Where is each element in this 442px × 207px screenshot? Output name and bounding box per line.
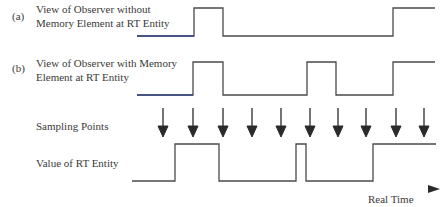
arrow-down-icon	[247, 108, 257, 137]
arrow-down-icon	[276, 108, 286, 137]
axis-arrowhead-icon	[428, 185, 440, 193]
arrow-down-icon	[391, 108, 401, 137]
arrow-down-icon	[333, 108, 343, 137]
waveform-a	[137, 8, 435, 36]
sampling-arrows	[158, 108, 429, 137]
arrow-down-icon	[188, 108, 198, 137]
arrow-down-icon	[218, 108, 228, 137]
timing-diagram	[0, 0, 442, 207]
arrow-down-icon	[361, 108, 371, 137]
arrow-down-icon	[158, 108, 168, 137]
waveform-b	[137, 62, 435, 95]
arrow-down-icon	[305, 108, 315, 137]
waveform-rt-entity	[132, 144, 436, 181]
arrow-down-icon	[419, 108, 429, 137]
